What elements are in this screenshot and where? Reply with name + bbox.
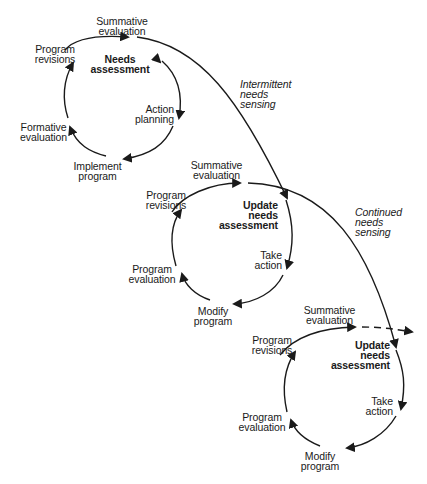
cycle-3-arc-right <box>396 350 404 409</box>
cycle-1-arc-to-revisions <box>64 63 73 118</box>
cycle-3-dashed-exit <box>362 327 412 332</box>
cycle-3-take-action: Take action <box>358 396 393 416</box>
cycle-1-needs-assessment: Needs assessment <box>85 54 155 74</box>
cycle-3-arc-to-modify <box>347 416 396 448</box>
cycle-1-formative-evaluation: Formative evaluation <box>16 122 71 142</box>
cycle-1-action-planning: Action planning <box>126 104 174 124</box>
cycle-3-summative-evaluation: Summative evaluation <box>297 305 362 325</box>
cycle-1-arc-to-implement <box>124 126 173 159</box>
cycle-1-implement-program: Implement program <box>70 161 125 181</box>
continued-needs-sensing-label: Continued needs sensing <box>355 207 425 237</box>
cycle-2-arc-right <box>286 200 292 268</box>
cycle-3-program-revisions: Program revisions <box>248 335 296 355</box>
cycle-2-modify-program: Modify program <box>188 306 238 326</box>
cycle-3-update-needs-assessment: Update needs assessment <box>325 340 390 370</box>
cycle-3-modify-program: Modify program <box>295 451 345 471</box>
cycle-2-arc-to-revisions <box>172 210 181 266</box>
cycle-1-program-revisions: Program revisions <box>30 44 80 64</box>
cycle-2-take-action: Take action <box>247 250 282 270</box>
cycle-3-program-evaluation: Program evaluation <box>234 412 290 432</box>
cycle-1-arc-to-formative <box>70 127 106 156</box>
cycle-2-arc-to-modify <box>234 275 283 304</box>
cycle-2-arc-to-evaluation <box>182 274 210 300</box>
cycle-3-arc-to-evaluation <box>291 420 320 446</box>
cycle-2-summative-evaluation: Summative evaluation <box>184 160 249 180</box>
intermittent-needs-sensing-label: Intermittent needs sensing <box>240 79 310 109</box>
cycle-2-program-evaluation: Program evaluation <box>124 264 180 284</box>
cycle-1-arc-to-needs <box>155 57 160 62</box>
cycle-3-arc-to-revisions <box>284 352 295 412</box>
cycle-1-summative-evaluation: Summative evaluation <box>77 16 167 36</box>
cycle-2-program-revisions: Program revisions <box>142 190 190 210</box>
cycle-2-update-needs-assessment: Update needs assessment <box>213 200 278 230</box>
